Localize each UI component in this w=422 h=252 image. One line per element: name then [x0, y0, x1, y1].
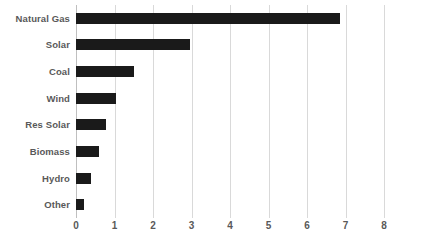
xtick-label-2: 2	[150, 220, 156, 231]
bar-biomass[interactable]	[76, 146, 99, 157]
category-axis-labels: Natural GasSolarCoalWindRes SolarBiomass…	[0, 5, 70, 218]
xtick-label-4: 4	[227, 220, 233, 231]
bar-coal[interactable]	[76, 66, 134, 77]
bar-solar[interactable]	[76, 39, 190, 50]
bar-row	[76, 85, 384, 112]
xtick-label-0: 0	[73, 220, 79, 231]
category-label-other: Other	[0, 191, 70, 218]
category-label-natural-gas: Natural Gas	[0, 5, 70, 32]
bar-row	[76, 5, 384, 32]
category-label-solar: Solar	[0, 32, 70, 59]
plot-area	[76, 5, 384, 218]
bar-series	[76, 5, 384, 218]
category-label-biomass: Biomass	[0, 138, 70, 165]
bar-row	[76, 58, 384, 85]
bar-row	[76, 165, 384, 192]
xtick-label-8: 8	[381, 220, 387, 231]
xtick-label-3: 3	[189, 220, 195, 231]
bar-hydro[interactable]	[76, 173, 91, 184]
category-label-wind: Wind	[0, 85, 70, 112]
bar-chart: Natural GasSolarCoalWindRes SolarBiomass…	[0, 0, 422, 252]
bar-row	[76, 32, 384, 59]
bar-wind[interactable]	[76, 93, 116, 104]
bar-res-solar[interactable]	[76, 119, 106, 130]
xtick-label-5: 5	[266, 220, 272, 231]
category-label-coal: Coal	[0, 58, 70, 85]
xtick-label-7: 7	[343, 220, 349, 231]
bar-row	[76, 191, 384, 218]
gridline-8	[384, 5, 385, 218]
category-label-hydro: Hydro	[0, 165, 70, 192]
bar-other[interactable]	[76, 199, 84, 210]
xtick-label-6: 6	[304, 220, 310, 231]
bar-natural-gas[interactable]	[76, 13, 340, 24]
bar-row	[76, 138, 384, 165]
category-label-res-solar: Res Solar	[0, 112, 70, 139]
xtick-label-1: 1	[112, 220, 118, 231]
bar-row	[76, 112, 384, 139]
value-axis-labels: 012345678	[76, 220, 384, 240]
